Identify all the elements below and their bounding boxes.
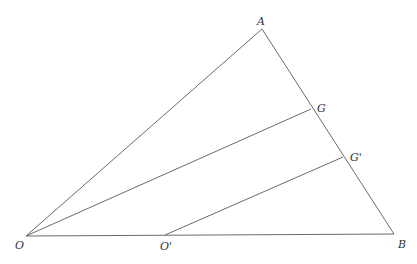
triangle-diagram: A G G' B O O' (0, 0, 417, 264)
label-G-prime: G' (350, 151, 362, 164)
segment-OA (26, 29, 262, 236)
label-O: O (15, 239, 24, 252)
label-G: G (317, 102, 326, 115)
segment-AB (262, 29, 394, 234)
label-B: B (397, 238, 406, 251)
segment-OG (26, 109, 311, 236)
label-A: A (256, 15, 265, 28)
label-O-prime: O' (160, 240, 172, 253)
segment-O'G' (165, 157, 343, 235)
segment-OB (26, 234, 394, 236)
